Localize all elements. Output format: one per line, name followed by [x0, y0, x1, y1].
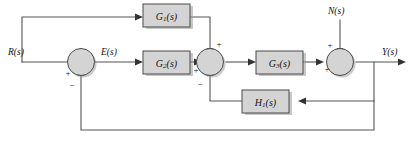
disturbance-signal-label: N(s): [327, 6, 344, 17]
sum1-sign-bottom: −: [69, 80, 74, 90]
block-g2[interactable]: G2(s): [143, 51, 193, 76]
svg-text:G3(s): G3(s): [269, 58, 291, 70]
summing-junction-3[interactable]: [327, 49, 356, 78]
block-g2-base: G: [156, 58, 163, 69]
block-g1-base: G: [156, 11, 163, 22]
path-outer-feedback: [78, 68, 374, 130]
diagram-canvas: G1(s) G2(s) G3(s) H1(s): [0, 0, 412, 145]
block-g2-arg: (s): [167, 58, 178, 70]
block-diagram-figure: G1(s) G2(s) G3(s) H1(s): [0, 0, 412, 145]
sum2-sign-bottom: −: [197, 79, 202, 89]
block-h1[interactable]: H1(s): [242, 90, 292, 115]
sum3-sign-left: +: [324, 64, 329, 74]
path-sum3-to-output: [356, 59, 406, 66]
block-g3-arg: (s): [280, 58, 291, 70]
svg-text:G2(s): G2(s): [156, 58, 178, 70]
output-signal-label: Y(s): [382, 47, 397, 58]
summing-junction-1[interactable]: [68, 49, 97, 78]
path-sum1-to-g2: [95, 59, 143, 66]
svg-text:H1(s): H1(s): [254, 97, 277, 109]
svg-text:G1(s): G1(s): [156, 11, 178, 23]
block-g3[interactable]: G3(s): [256, 51, 306, 76]
summing-junction-2[interactable]: [197, 49, 226, 78]
block-g1-arg: (s): [167, 11, 178, 23]
path-sum2-to-g3: [226, 59, 256, 66]
sum1-sign-left: +: [65, 68, 70, 78]
block-g1[interactable]: G1(s): [143, 4, 193, 29]
input-signal-label: R(s): [7, 47, 24, 58]
figure-caption-strip: [0, 136, 412, 145]
block-h1-arg: (s): [266, 97, 277, 109]
block-g3-base: G: [269, 58, 276, 69]
sum2-sign-top: +: [216, 39, 221, 49]
sum3-sign-top: +: [327, 40, 332, 50]
sum2-sign-left: +: [193, 65, 198, 75]
error-signal-label: E(s): [100, 47, 117, 58]
